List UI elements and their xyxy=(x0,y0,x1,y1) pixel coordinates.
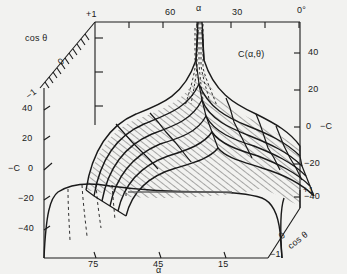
cos-theta-top-left-axis-label: cos θ xyxy=(25,34,48,43)
minus-c-right-tick-20: 20 xyxy=(308,85,318,94)
cos-theta-bottom-right-tick-plus1: +1 xyxy=(303,186,314,195)
figure-3d-surface-plot: 60 30 0° α C(α,θ) 40 20 0 −C −20 −40 40 … xyxy=(0,0,347,274)
minus-c-left-tick-40: 40 xyxy=(22,104,32,113)
alpha-top-tick-30: 30 xyxy=(232,8,242,17)
function-label: C(α,θ) xyxy=(238,50,264,59)
plot-canvas xyxy=(0,0,347,274)
alpha-top-axis-label: α xyxy=(196,4,201,13)
minus-c-left-tick-0: 0 xyxy=(28,164,33,173)
minus-c-right-tick-m20: −20 xyxy=(304,159,320,168)
cos-theta-top-left-tick-plus1: +1 xyxy=(86,10,97,19)
minus-c-right-tick-40: 40 xyxy=(308,48,318,57)
minus-c-left-tick-20: 20 xyxy=(22,134,32,143)
minus-c-left-tick-m20: −20 xyxy=(18,194,34,203)
alpha-bottom-tick-75: 75 xyxy=(88,260,98,269)
minus-c-right-tick-0: 0 xyxy=(306,122,311,131)
minus-c-right-axis-label: −C xyxy=(320,122,332,131)
cos-theta-bottom-right-tick-minus1: −1 xyxy=(270,250,281,259)
alpha-top-tick-0: 0° xyxy=(297,6,306,15)
alpha-bottom-axis-label: α xyxy=(156,266,161,274)
minus-c-left-tick-m40: −40 xyxy=(18,224,34,233)
alpha-bottom-tick-15: 15 xyxy=(218,260,228,269)
alpha-top-tick-60: 60 xyxy=(165,8,175,17)
minus-c-left-axis-label: −C xyxy=(8,164,20,173)
